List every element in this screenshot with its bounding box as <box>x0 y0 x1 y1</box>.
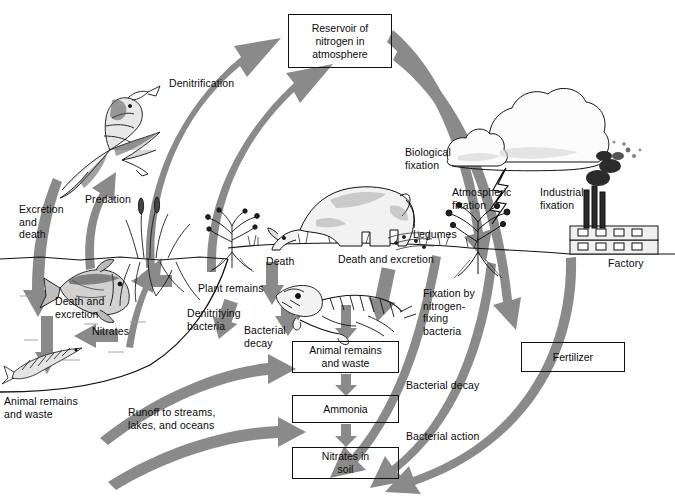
label-atmospheric-fixation: Atmospheric fixation <box>452 186 511 211</box>
label-excretion-and-death: Excretion and death <box>19 203 64 241</box>
diagram-artwork <box>0 0 675 500</box>
label-bacterial-decay-center: Bacterial decay <box>244 324 286 349</box>
box-fertilizer: Fertilizer <box>521 342 625 372</box>
box-ammonia-label: Ammonia <box>323 403 367 416</box>
label-industrial-fixation: Industrial fixation <box>540 186 584 211</box>
nitrogen-cycle-diagram: Reservoir of nitrogen in atmosphere Anim… <box>0 0 675 500</box>
box-animal-remains-label: Animal remains and waste <box>309 344 381 370</box>
label-nitrates-water: Nitrates <box>92 325 129 338</box>
label-denitrification: Denitrification <box>169 77 234 90</box>
label-death-and-excretion-land: Death and excretion <box>338 253 434 266</box>
box-reservoir-label: Reservoir of nitrogen in atmosphere <box>312 22 369 61</box>
label-death: Death <box>266 255 295 268</box>
label-fixation-by-nitrogen-fixing-bacteria: Fixation by nitrogen- fixing bacteria <box>423 287 475 337</box>
label-plant-remains: Plant remains <box>198 282 264 295</box>
box-animal-remains-and-waste: Animal remains and waste <box>292 341 399 373</box>
label-bacterial-action-chain: Bacterial action <box>406 430 479 443</box>
label-runoff: Runoff to streams, lakes, and oceans <box>128 406 215 431</box>
box-reservoir: Reservoir of nitrogen in atmosphere <box>288 14 392 68</box>
label-predation: Predation <box>85 193 131 206</box>
label-denitrifying-bacteria: Denitrifying bacteria <box>187 307 241 332</box>
box-nitrates-in-soil: Nitrates in soil <box>292 447 399 479</box>
label-legumes: Legumes <box>413 228 457 241</box>
box-ammonia: Ammonia <box>292 395 399 423</box>
label-death-and-excretion-water: Death and excretion <box>55 295 104 320</box>
label-bacterial-decay-chain: Bacterial decay <box>406 379 479 392</box>
reeds-illustration <box>120 197 200 306</box>
box-fertilizer-label: Fertilizer <box>553 351 593 364</box>
label-animal-remains-and-waste-left: Animal remains and waste <box>4 395 78 420</box>
box-nitrates-in-soil-label: Nitrates in soil <box>322 450 369 476</box>
label-factory: Factory <box>608 257 644 270</box>
label-biological-fixation: Biological fixation <box>405 146 451 171</box>
